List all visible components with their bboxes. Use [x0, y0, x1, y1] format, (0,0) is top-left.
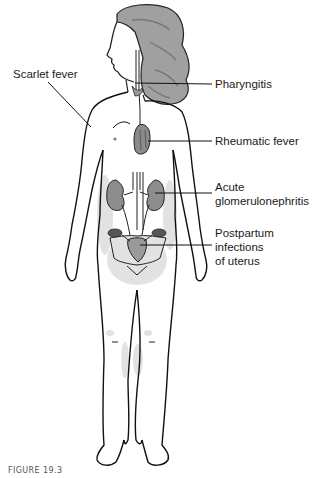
figure-caption: FIGURE 19.3 — [8, 466, 62, 475]
label-line: Scarlet fever — [13, 67, 78, 81]
nipple — [114, 138, 117, 141]
face — [107, 22, 134, 82]
label-line: of uterus — [215, 254, 274, 268]
label-postpartum-infections: Postpartum infections of uterus — [215, 226, 274, 268]
kidney-left — [107, 180, 124, 211]
kidney-right — [147, 180, 164, 211]
label-line: Acute — [215, 180, 309, 194]
label-line: Postpartum — [215, 226, 274, 240]
label-acute-glomerulonephritis: Acute glomerulonephritis — [215, 180, 309, 208]
leader-scarlet-fever — [48, 82, 91, 127]
label-scarlet-fever: Scarlet fever — [13, 67, 78, 81]
label-line: Rheumatic fever — [215, 134, 299, 148]
vessels — [122, 172, 149, 235]
label-pharyngitis: Pharyngitis — [215, 77, 272, 91]
label-line: Pharyngitis — [215, 77, 272, 91]
label-line: glomerulonephritis — [215, 194, 309, 208]
label-rheumatic-fever: Rheumatic fever — [215, 134, 299, 148]
heart — [134, 124, 150, 154]
pharynx — [132, 86, 143, 96]
airway — [136, 50, 140, 128]
label-line: infections — [215, 240, 274, 254]
